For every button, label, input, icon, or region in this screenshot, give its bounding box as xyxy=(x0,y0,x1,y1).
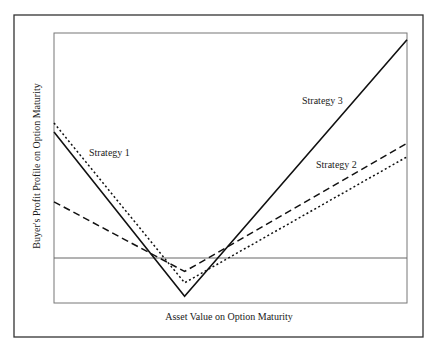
strategy-3-label: Strategy 3 xyxy=(302,95,343,106)
strategy-1-label: Strategy 1 xyxy=(89,147,130,158)
strategy-2-label: Strategy 2 xyxy=(316,159,357,170)
outer-frame xyxy=(14,15,423,337)
x-axis-label: Asset Value on Option Maturity xyxy=(165,311,293,322)
y-axis-label: Buyer's Profit Profile on Option Maturit… xyxy=(31,83,42,248)
payoff-chart: Strategy 1 Strategy 2 Strategy 3 Asset V… xyxy=(0,0,433,344)
